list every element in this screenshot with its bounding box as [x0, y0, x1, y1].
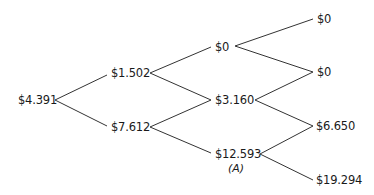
- edge-ud-uud: [255, 72, 313, 100]
- node-root: $4.391: [18, 93, 57, 107]
- node-dd-annotation: (A): [228, 162, 244, 175]
- edge-root-down: [55, 100, 107, 126]
- edge-u-ud: [150, 73, 211, 100]
- node-uu: $0: [215, 40, 229, 54]
- node-d: $7.612: [111, 120, 150, 134]
- node-udd: $6.650: [316, 119, 355, 133]
- edge-d-dd: [150, 127, 211, 153]
- node-dd: $12.593: [215, 147, 261, 161]
- node-ddd: $19.294: [316, 173, 362, 187]
- edge-root-up: [55, 75, 107, 100]
- node-ud: $3.160: [215, 93, 254, 107]
- node-uuu: $0: [317, 12, 331, 26]
- node-u: $1.502: [111, 66, 150, 80]
- edge-dd-udd: [260, 126, 313, 154]
- edge-u-uu: [150, 47, 211, 73]
- edge-uu-uud: [235, 46, 313, 72]
- node-uud: $0: [317, 65, 331, 79]
- edge-d-ud: [150, 100, 211, 127]
- edge-uu-uuu: [235, 19, 313, 46]
- edge-dd-ddd: [260, 154, 313, 180]
- edge-ud-udd: [255, 100, 313, 126]
